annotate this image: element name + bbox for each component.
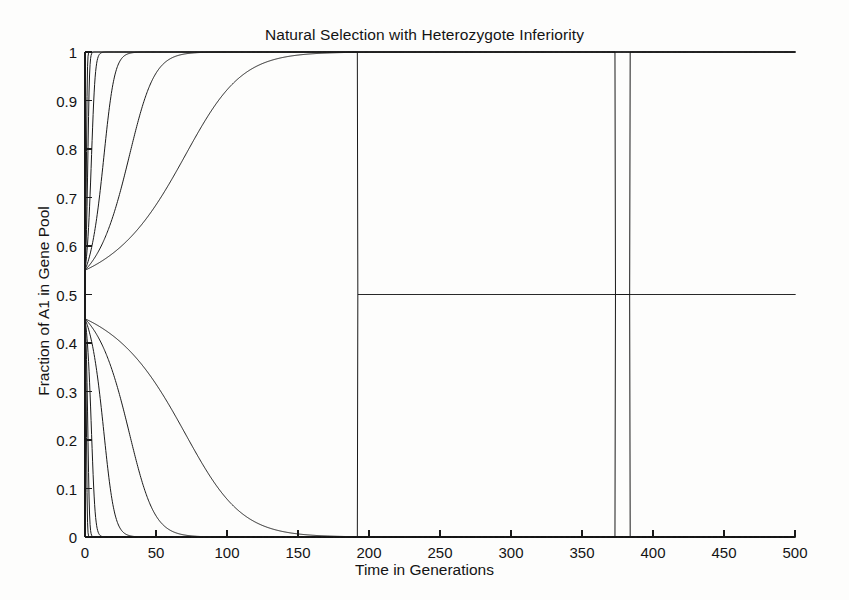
trajectory-curve	[85, 295, 795, 538]
trajectory-curve	[85, 319, 795, 537]
x-axis-label: Time in Generations	[0, 561, 849, 579]
trajectory-curve	[85, 52, 795, 270]
x-tick-label: 500	[782, 544, 807, 561]
x-tick-label: 100	[214, 544, 239, 561]
y-tick-label: 0.6	[23, 238, 77, 255]
plot-area	[0, 0, 849, 600]
y-tick-label: 0.3	[23, 383, 77, 400]
chart-title: Natural Selection with Heterozygote Infe…	[0, 26, 849, 44]
x-tick-label: 250	[427, 544, 452, 561]
y-tick-label: 0.9	[23, 92, 77, 109]
trajectory-curve	[85, 52, 795, 270]
trajectory-curve	[85, 319, 795, 537]
trajectory-curves	[85, 52, 795, 537]
x-tick-label: 200	[356, 544, 381, 561]
x-tick-label: 400	[640, 544, 665, 561]
y-tick-label: 1	[23, 44, 77, 61]
x-tick-label: 50	[148, 544, 165, 561]
x-tick-label: 450	[711, 544, 736, 561]
x-tick-label: 300	[498, 544, 523, 561]
trajectory-curve	[85, 52, 795, 295]
y-tick-label: 0.7	[23, 189, 77, 206]
y-tick-label: 0.8	[23, 141, 77, 158]
y-tick-label: 0.2	[23, 432, 77, 449]
trajectory-curve	[85, 52, 795, 295]
trajectory-curve	[85, 319, 795, 537]
x-tick-label: 0	[81, 544, 89, 561]
y-tick-label: 0.1	[23, 480, 77, 497]
trajectory-curve	[85, 319, 795, 537]
x-tick-label: 350	[569, 544, 594, 561]
y-tick-label: 0.5	[23, 286, 77, 303]
trajectory-curve	[85, 295, 795, 538]
trajectory-curve	[85, 52, 795, 270]
trajectory-curve	[85, 52, 795, 270]
figure-canvas: Natural Selection with Heterozygote Infe…	[0, 0, 849, 600]
y-tick-label: 0.4	[23, 335, 77, 352]
y-tick-label: 0	[23, 529, 77, 546]
x-tick-label: 150	[285, 544, 310, 561]
